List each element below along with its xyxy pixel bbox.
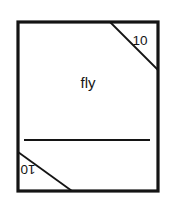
pattern-piece-figure: fly 10 10 [0,0,174,215]
diagram-canvas: fly 10 10 [0,0,174,215]
corner-label-bottom-left: 10 [20,162,35,177]
piece-label-fly: fly [81,74,97,91]
corner-label-top-right: 10 [132,33,147,48]
